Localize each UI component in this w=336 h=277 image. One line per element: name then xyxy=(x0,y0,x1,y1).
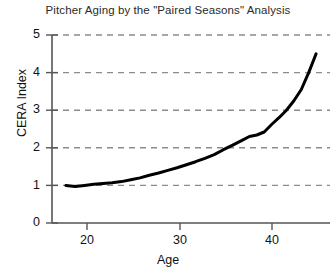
series-line-cera-index xyxy=(66,54,316,187)
x-axis-title: Age xyxy=(0,253,336,267)
y-tick-label-5: 5 xyxy=(24,27,40,41)
x-axis xyxy=(52,223,330,230)
y-axis xyxy=(46,35,58,223)
x-tick-label-40: 40 xyxy=(260,233,284,247)
x-tick-label-30: 30 xyxy=(168,233,192,247)
chart-container: Pitcher Aging by the "Paired Seasons" An… xyxy=(0,0,336,277)
x-tick-label-20: 20 xyxy=(75,233,99,247)
y-tick-label-0: 0 xyxy=(24,215,40,229)
y-tick-label-1: 1 xyxy=(24,178,40,192)
y-axis-title: CERA Index xyxy=(15,55,29,151)
